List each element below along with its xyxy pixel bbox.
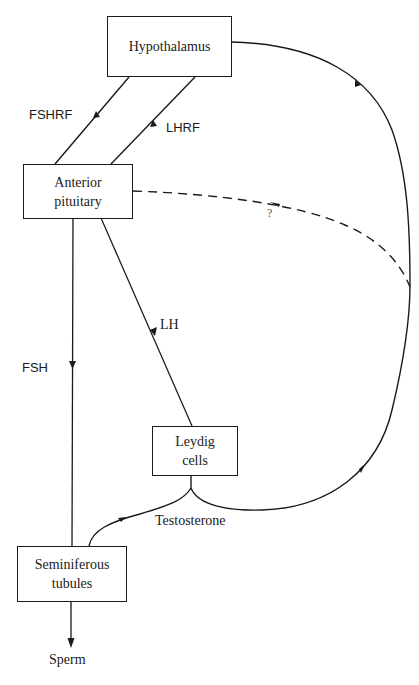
node-seminiferous-tubules-line1: Seminiferous <box>35 555 110 574</box>
label-unknown-feedback: ? <box>267 206 272 221</box>
label-fsh: FSH <box>22 360 48 375</box>
node-leydig-cells: Leydig cells <box>152 426 238 476</box>
label-fshrf: FSHRF <box>29 107 72 122</box>
node-seminiferous-tubules: Seminiferous tubules <box>17 546 127 602</box>
node-seminiferous-tubules-line2: tubules <box>52 574 92 593</box>
node-hypothalamus: Hypothalamus <box>107 16 232 77</box>
node-leydig-cells-line1: Leydig <box>175 432 215 451</box>
edge-sperm <box>68 601 75 648</box>
node-hypothalamus-label: Hypothalamus <box>129 37 211 56</box>
feedback-lower-arrow-icon <box>359 464 365 473</box>
node-anterior-pituitary-line2: pituitary <box>54 192 101 211</box>
edge-fsh <box>69 218 76 546</box>
fsh-arrow-icon <box>69 361 76 369</box>
testosterone-arrow-icon <box>118 517 126 522</box>
label-testosterone: Testosterone <box>155 513 226 529</box>
node-anterior-pituitary-line1: Anterior <box>54 173 101 192</box>
node-leydig-cells-line2: cells <box>182 451 208 470</box>
label-sperm: Sperm <box>49 652 86 668</box>
node-anterior-pituitary: Anterior pituitary <box>23 164 133 219</box>
label-lh: LH <box>160 317 179 333</box>
label-lhrf: LHRF <box>166 120 200 135</box>
sperm-arrow-icon <box>68 638 75 648</box>
